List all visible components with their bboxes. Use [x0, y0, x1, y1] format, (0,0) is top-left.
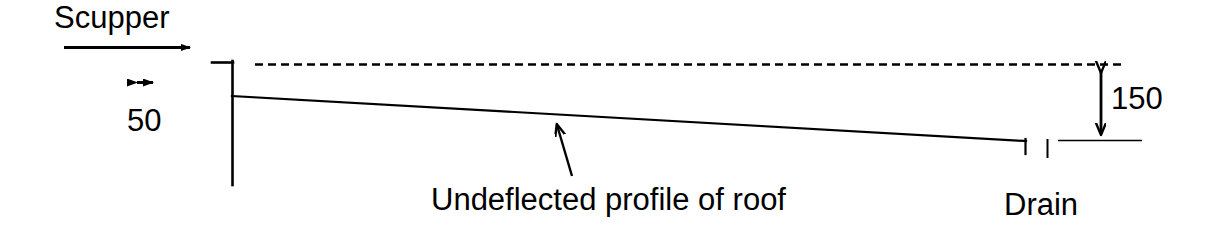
roof-drainage-diagram: Scupper 50 150 Drain Undeflected profile…	[0, 0, 1226, 246]
roof-profile-label: Undeflected profile of roof	[431, 184, 786, 215]
scupper-dimension-label: 50	[127, 105, 161, 136]
roof-profile-leader-arrow-icon	[557, 125, 572, 176]
roof-profile-line	[232, 96, 1026, 141]
drain-label: Drain	[1004, 189, 1078, 220]
scupper-label: Scupper	[54, 2, 169, 33]
drain-dimension-label: 150	[1111, 83, 1163, 114]
